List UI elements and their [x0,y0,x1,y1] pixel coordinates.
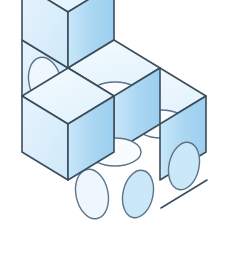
face-ellipse [118,167,157,220]
figure-canvas [0,0,234,271]
isometric-cube-illustration [0,0,234,271]
cube-stack-group [22,0,207,222]
